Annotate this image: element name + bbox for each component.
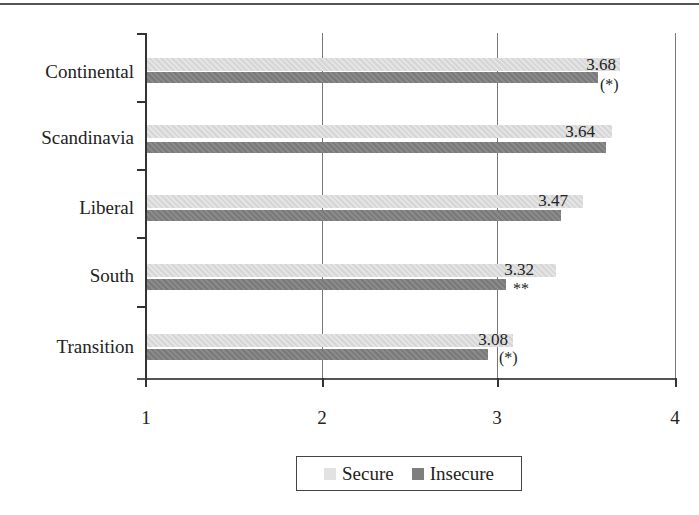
bar-insecure-transition	[147, 349, 488, 360]
significance-label: **	[513, 280, 529, 298]
category-label: South	[90, 265, 134, 287]
significance-label: (*)	[499, 349, 518, 367]
bar-insecure-south	[147, 279, 506, 290]
value-label: 3.47	[538, 191, 568, 211]
bar-insecure-liberal	[147, 210, 561, 221]
significance-label: (*)	[600, 76, 619, 94]
y-tick	[137, 306, 146, 308]
gridline-4	[675, 33, 676, 379]
x-tick-label: 3	[492, 407, 502, 429]
y-tick	[137, 101, 146, 103]
x-tick-label: 1	[141, 407, 151, 429]
legend-label: Insecure	[430, 463, 494, 485]
bar-secure-south	[147, 264, 556, 277]
y-tick	[137, 169, 146, 171]
legend: Secure Insecure	[296, 456, 522, 491]
value-label: 3.64	[565, 122, 595, 142]
category-label: Liberal	[79, 197, 134, 219]
legend-item-insecure: Insecure	[412, 463, 494, 485]
bar-secure-continental	[147, 58, 620, 71]
x-tick	[497, 378, 499, 387]
bar-secure-scandinavia	[147, 125, 612, 138]
value-label: 3.32	[504, 260, 534, 280]
category-label: Scandinavia	[41, 127, 134, 149]
x-axis	[137, 378, 676, 380]
value-label: 3.08	[478, 330, 508, 350]
category-label: Transition	[57, 336, 134, 358]
bar-secure-liberal	[147, 195, 583, 208]
x-tick-label: 4	[670, 407, 680, 429]
legend-swatch-insecure	[412, 468, 424, 480]
y-tick	[137, 33, 146, 35]
x-tick	[675, 378, 677, 387]
legend-swatch-secure	[324, 468, 336, 480]
legend-label: Secure	[342, 463, 394, 485]
bar-insecure-scandinavia	[147, 142, 606, 153]
x-tick	[322, 378, 324, 387]
bar-secure-transition	[147, 334, 513, 347]
value-label: 3.68	[586, 55, 616, 75]
x-tick	[145, 378, 147, 387]
legend-item-secure: Secure	[324, 463, 394, 485]
x-tick-label: 2	[317, 407, 327, 429]
bar-chart: 1 2 3 4 Continental 3.68 (*) Scandinavia…	[0, 0, 699, 515]
y-tick	[137, 237, 146, 239]
category-label: Continental	[45, 61, 134, 83]
bar-insecure-continental	[147, 72, 598, 83]
